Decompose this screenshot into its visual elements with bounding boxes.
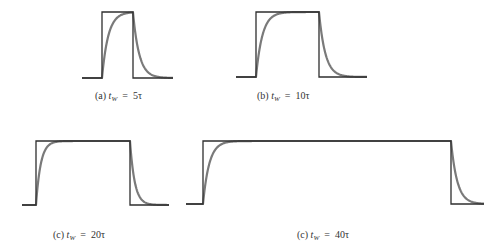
- caption-equals: =: [285, 90, 291, 101]
- panel-caption-b: (b) tW = 10τ: [257, 90, 309, 105]
- rc-response-curve: [22, 141, 169, 205]
- panel-a: [82, 12, 173, 78]
- rc-response-curve: [82, 12, 173, 78]
- caption-subscript: W: [111, 95, 117, 103]
- panel-c-40tau: [186, 141, 484, 204]
- rc-response-curve: [186, 141, 484, 204]
- caption-subscript: W: [69, 234, 75, 242]
- caption-value: 20τ: [91, 229, 105, 240]
- caption-subscript: W: [313, 234, 319, 242]
- caption-equals: =: [122, 90, 128, 101]
- panel-b: [236, 12, 367, 77]
- caption-prefix: (a): [95, 90, 106, 101]
- panel-caption-a: (a) tW = 5τ: [95, 90, 142, 105]
- input-pulse: [186, 141, 484, 204]
- input-pulse: [82, 12, 173, 78]
- caption-equals: =: [324, 229, 330, 240]
- caption-prefix: (b): [257, 90, 269, 101]
- caption-subscript: W: [274, 95, 280, 103]
- caption-prefix: (c): [53, 229, 64, 240]
- caption-equals: =: [80, 229, 86, 240]
- caption-value: 10τ: [295, 90, 309, 101]
- panel-caption-c-40tau: (c) tW = 40τ: [297, 229, 349, 244]
- panel-c-20tau: [22, 141, 169, 205]
- panel-caption-c-20tau: (c) tW = 20τ: [53, 229, 105, 244]
- caption-value: 5τ: [133, 90, 142, 101]
- caption-value: 40τ: [335, 229, 349, 240]
- input-pulse: [236, 12, 367, 77]
- pulse-response-figure: [0, 0, 498, 248]
- caption-prefix: (c): [297, 229, 308, 240]
